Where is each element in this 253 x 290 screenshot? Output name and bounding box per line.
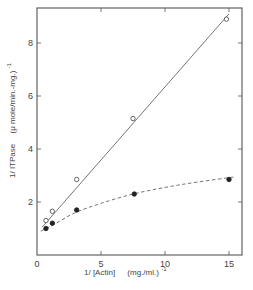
filled-circle-point (74, 208, 78, 212)
x-tick-label: 0 (34, 259, 39, 269)
data-points (44, 17, 231, 231)
y-tick-label: 8 (28, 38, 33, 48)
lineweaver-burk-chart: 051015 2468 1/ [Actin] (mg./ml.) -1 1/ I… (0, 0, 253, 290)
open-circle-point (44, 218, 48, 222)
dashed-fit-curve (41, 177, 236, 231)
open-circle-point (50, 209, 54, 213)
open-circle-point (224, 17, 228, 21)
y-axis-label: 1/ ITPase (μ mole/min.-mg.) -1 (6, 62, 17, 178)
open-circle-point (74, 177, 78, 181)
open-circle-point (131, 116, 135, 120)
x-axis-ticks: 051015 (34, 8, 234, 269)
fit-lines (41, 14, 236, 231)
filled-circle-point (44, 226, 48, 230)
filled-circle-point (132, 192, 136, 196)
y-tick-label: 2 (28, 197, 33, 207)
plot-border (37, 8, 242, 255)
y-axis-ticks: 2468 (28, 38, 242, 207)
x-tick-label: 15 (224, 259, 234, 269)
plot-frame (37, 8, 242, 255)
x-axis-label: 1/ [Actin] (mg./ml.) -1 (84, 266, 167, 277)
filled-circle-point (50, 221, 54, 225)
y-tick-label: 6 (28, 91, 33, 101)
filled-circle-point (227, 177, 231, 181)
y-tick-label: 4 (28, 144, 33, 154)
